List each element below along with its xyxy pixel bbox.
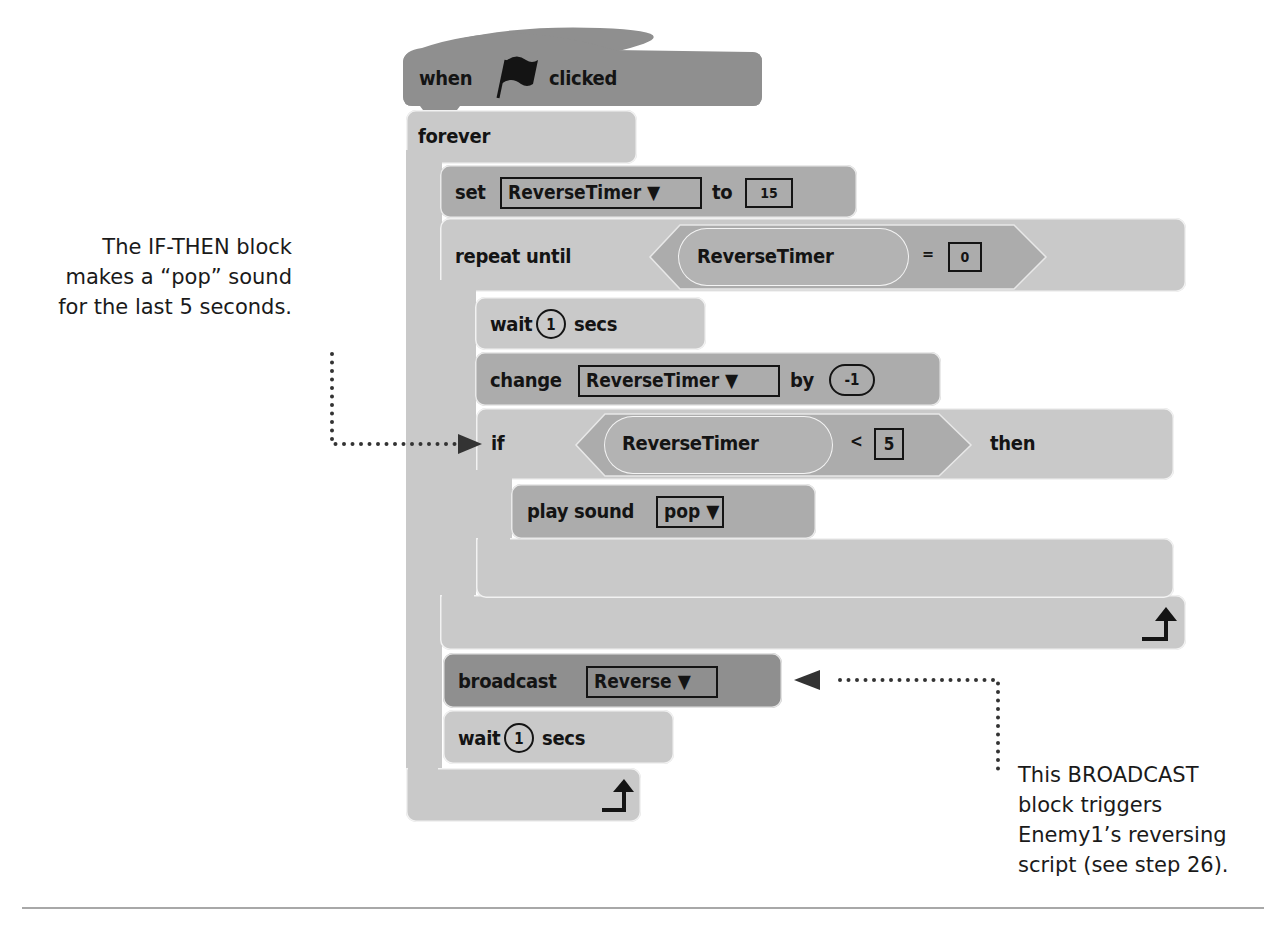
less-than-operator: <: [850, 431, 863, 451]
less-than-value-input[interactable]: 5: [874, 428, 904, 460]
broadcast-label: broadcast: [458, 669, 557, 693]
repeat-arm-join: [442, 588, 474, 608]
wait-label: wait: [490, 312, 532, 336]
annotation-line: block triggers: [1018, 790, 1229, 820]
broadcast-pointer-arrow: [790, 668, 1010, 788]
change-variable-dropdown[interactable]: ReverseTimer ▼: [578, 365, 780, 397]
equals-operator: =: [922, 244, 934, 263]
annotation-line: script (see step 26).: [1018, 850, 1229, 880]
change-amount-input[interactable]: -1: [829, 364, 875, 396]
broadcast-annotation: This BROADCAST block triggers Enemy1’s r…: [1018, 760, 1229, 880]
if-then-pointer-arrow: [322, 350, 492, 460]
if-arm-join: [478, 532, 510, 546]
set-value-input[interactable]: 15: [745, 178, 793, 208]
annotation-line: Enemy1’s reversing: [1018, 820, 1229, 850]
wait-seconds-input[interactable]: 1: [504, 723, 534, 753]
if-then-block-bottom: [476, 538, 1174, 598]
reporter-label: ReverseTimer: [697, 244, 833, 268]
repeat-until-label: repeat until: [455, 244, 571, 268]
broadcast-message-dropdown[interactable]: Reverse ▼: [586, 666, 718, 698]
annotation-line: The IF-THEN block: [58, 232, 292, 262]
change-label: change: [490, 368, 562, 392]
page-divider: [22, 907, 1264, 909]
play-sound-label: play sound: [527, 499, 634, 523]
repeat-until-block-bottom: [440, 595, 1186, 650]
reporter-label: ReverseTimer: [622, 431, 758, 455]
if-then-annotation: The IF-THEN block makes a “pop” sound fo…: [58, 232, 292, 322]
forever-label: forever: [418, 124, 490, 148]
set-to-label: to: [712, 180, 732, 204]
green-flag-icon: [494, 50, 540, 100]
wait-secs-label: secs: [542, 726, 585, 750]
then-label: then: [990, 431, 1035, 455]
loop-arrow-icon: [600, 776, 634, 816]
annotation-line: makes a “pop” sound: [58, 262, 292, 292]
annotation-line: for the last 5 seconds.: [58, 292, 292, 322]
set-label: set: [455, 180, 486, 204]
if-label: if: [491, 431, 504, 455]
loop-arrow-icon: [1140, 603, 1178, 645]
wait-secs-label: secs: [574, 312, 617, 336]
wait-seconds-input[interactable]: 1: [536, 309, 566, 339]
annotation-line: This BROADCAST: [1018, 760, 1229, 790]
sound-dropdown[interactable]: pop ▼: [656, 496, 724, 528]
change-by-label: by: [790, 368, 814, 392]
hat-when-label: when: [419, 66, 472, 90]
wait-label: wait: [458, 726, 500, 750]
hat-clicked-label: clicked: [549, 66, 617, 90]
equals-value-input[interactable]: 0: [948, 242, 982, 272]
set-variable-dropdown[interactable]: ReverseTimer ▼: [500, 177, 702, 209]
forever-block-arm: [406, 150, 442, 790]
forever-arm-join: [408, 760, 438, 780]
